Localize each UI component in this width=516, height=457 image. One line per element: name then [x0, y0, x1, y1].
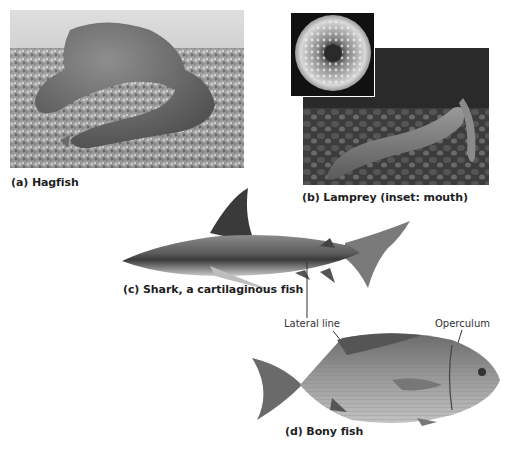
bony-fish-caption: (d) Bony fish: [285, 425, 363, 438]
bony-fish-image: [252, 330, 502, 432]
bony-fish-photo: [252, 330, 502, 432]
operculum-label: Operculum: [435, 318, 490, 329]
lateral-line-label: Lateral line: [284, 318, 340, 329]
